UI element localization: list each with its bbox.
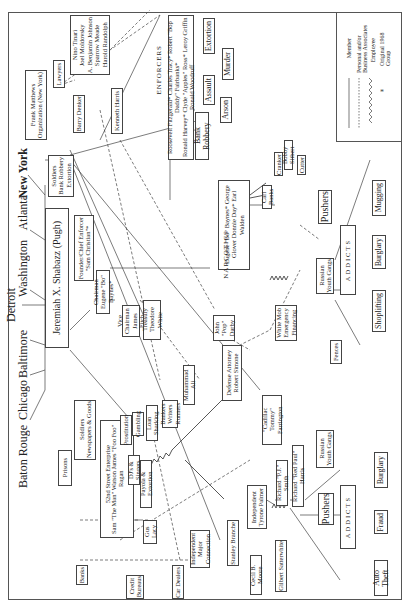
city-baton-rouge: Baton Rouge xyxy=(16,425,31,488)
enforcers-box: Roosevelt Fitzgerald* Charles Tracy* Rob… xyxy=(168,15,194,160)
crime-bank-robbery: Bank Robbery xyxy=(195,112,209,160)
crime-auto-theft: Auto Theft xyxy=(374,560,388,596)
cadillac-box: "Cadillac Tommy" Farrington xyxy=(262,395,282,445)
fences-box: Fences xyxy=(330,340,342,364)
leader-box: Jeremiah X. Shabazz (Pugh) xyxy=(45,208,69,348)
treasury-box: Treasury Theodore White xyxy=(143,300,161,340)
carl-banks-box: Carl Banks xyxy=(262,185,272,209)
svg-text:*: * xyxy=(380,88,384,97)
prostitution-box: Prostitution xyxy=(120,415,132,445)
john-pop-box: John "Pop" Darby xyxy=(213,315,235,341)
defense-attorney-box: Defense Attorney Robert Simone xyxy=(222,345,242,401)
founder-box: Founder/Chief Enforcer "Sam Christian"* xyxy=(74,215,94,281)
independent-major-box: Independent Major Connection xyxy=(190,530,210,568)
loan-sharking-box: Loan Sharking xyxy=(146,405,158,441)
cecil-moore-box: Cecil B. Moore xyxy=(250,555,262,595)
barry-denker-box: Barry Denker xyxy=(73,95,85,133)
crime-extortion: Extortion xyxy=(203,18,215,54)
pushers-top-box: Pushers xyxy=(318,190,332,224)
stanley-branche-box: Stanley Branche xyxy=(227,520,239,566)
lawyer-names-box: Nino Tinari Joel Moldovsky A. Benjamin J… xyxy=(70,15,110,75)
enforcers-title: ENFORCERS xyxy=(155,45,163,94)
street-enterprise-title: 52nd Street Enterprise xyxy=(104,445,111,503)
payola-box: Payola & Extortion xyxy=(140,460,152,508)
city-chicago: Chicago xyxy=(16,380,31,420)
white-mob-box: White Mob Emergency Financing xyxy=(275,305,297,341)
city-atlanta: Atlanta xyxy=(16,195,31,230)
russian-top-box: Russian Youth Gangs xyxy=(316,258,334,294)
gus-lacy-box: Gus Lacy xyxy=(143,520,157,544)
legend-original-group: Original 1968 Group xyxy=(379,28,391,66)
legend-member: Member xyxy=(346,38,352,58)
legend-employee: Employee xyxy=(370,38,376,62)
pushers-bottom-box: Pushers xyxy=(318,493,334,525)
addicts-top-box: ADDICTS xyxy=(340,225,356,295)
crime-fraud: Fraud xyxy=(374,510,388,534)
muhammad-ali-box: Muhammad Ali xyxy=(183,365,195,405)
bobby-box: Bobby Sitbert xyxy=(284,140,293,170)
crime-mugging: Mugging xyxy=(372,180,386,216)
chairman-box: Chairman Eugene "Bo" Baynes* xyxy=(96,270,110,314)
independent-tyrone-box: Independent Tyrone Palmer xyxy=(247,485,267,529)
leader-name: Jeremiah X. Shabazz (Pugh) xyxy=(51,221,63,335)
city-new-york: New York xyxy=(16,148,31,199)
cutter-box: Cutter xyxy=(297,155,306,175)
russian-bottom-box: Russian Youth Gangs xyxy=(316,430,334,468)
vice-chairman-box: Vice Chairman James Fitch xyxy=(122,305,140,337)
richard-harris-box: Richard "Red Paul" Harris xyxy=(292,445,304,507)
richard-smith-box: Richard "P.J." Smith xyxy=(276,460,288,506)
city-washington: Washington xyxy=(16,240,31,297)
prisons-box: Prisons xyxy=(58,450,72,486)
addicts-bottom-box: ADDICTS xyxy=(340,485,356,549)
crime-arson: Arson xyxy=(220,97,232,123)
crime-burglary-top: Burglary xyxy=(372,235,386,269)
soldiers-bank-box: Soldiers Bank Robbery Extortion xyxy=(48,155,74,197)
crime-burglary-bottom: Burglary xyxy=(374,452,388,488)
car-dealers-box: Car Dealers xyxy=(172,565,184,599)
narcotics-title: NARCOTICS xyxy=(222,230,230,279)
banks-box: Banks xyxy=(76,565,88,585)
legend: * Member Personal and/or Business Associ… xyxy=(336,12,402,142)
kenneth-harris-box: Kenneth Harris xyxy=(111,88,123,134)
crime-murder: Murder xyxy=(222,48,234,80)
bankers-box: Bankers Writers Runners xyxy=(162,400,178,428)
crime-assault: Assault xyxy=(203,75,215,105)
soldiers-news-box: Soldiers Newspapers & Goods xyxy=(74,400,96,460)
lawyers-box: Lawyers xyxy=(53,60,65,88)
gilbert-box: Gilbert Satterwhite xyxy=(275,540,287,592)
gambling-box: Gambling xyxy=(132,412,144,436)
city-baltimore: Baltimore xyxy=(16,330,31,378)
crime-shoplifting: Shoplifting xyxy=(372,290,386,332)
frank-matthews-box: Frank Matthews Organization (New York) xyxy=(25,70,47,140)
credit-bureaus-box: Credit Bureaus xyxy=(126,575,144,599)
legend-associates: Personal and/or Business Associates xyxy=(356,23,368,73)
